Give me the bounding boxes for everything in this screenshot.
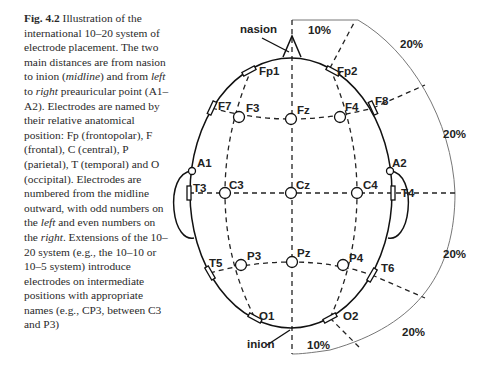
electrode-C4 (352, 188, 363, 199)
nasion-pointer (262, 38, 289, 52)
label-Cz: Cz (296, 179, 310, 191)
electrode-Cz (286, 188, 297, 199)
label-P3: P3 (247, 250, 261, 262)
electrode-Fz (286, 114, 297, 125)
label-F7: F7 (218, 100, 231, 112)
electrode-A1 (189, 168, 196, 175)
label-Fp2: Fp2 (337, 65, 357, 77)
label-A1: A1 (197, 157, 212, 169)
label-inion: inion (247, 338, 274, 350)
label-nasion: nasion (240, 23, 277, 35)
electrode-O2 (323, 313, 337, 323)
label-pct-arc-4: 20% (402, 326, 425, 338)
radial-line (330, 21, 355, 68)
electrode-F3 (234, 112, 245, 123)
label-pct-bottom: 10% (307, 339, 330, 351)
electrode-P3 (236, 260, 247, 271)
label-C3: C3 (229, 179, 244, 191)
electrode-Fp1 (242, 66, 256, 76)
label-F8: F8 (375, 95, 389, 107)
label-pct-arc-1: 20% (400, 38, 423, 50)
electrode-T3 (187, 186, 191, 200)
label-O2: O2 (343, 310, 358, 322)
electrode-F7 (207, 101, 217, 115)
label-T3: T3 (193, 182, 206, 194)
radial-line (330, 318, 360, 348)
label-pct-top: 10% (308, 24, 331, 36)
label-Fp1: Fp1 (259, 65, 280, 77)
eeg-10-20-diagram: nasion inion 10% 10% 20% 20% 20% 20% Fp1… (0, 0, 492, 365)
label-T5: T5 (209, 257, 223, 269)
electrode-T6 (367, 268, 377, 282)
label-C4: C4 (363, 179, 378, 191)
electrode-T4 (391, 186, 395, 200)
electrode-F4 (335, 112, 346, 123)
label-A2: A2 (392, 157, 407, 169)
label-F4: F4 (345, 101, 359, 113)
label-T4: T4 (401, 187, 415, 199)
label-O1: O1 (259, 310, 275, 322)
electrode-P4 (338, 260, 349, 271)
label-Pz: Pz (297, 247, 311, 259)
label-T6: T6 (381, 262, 394, 274)
label-Fz: Fz (297, 104, 310, 116)
label-pct-arc-3: 20% (443, 248, 466, 260)
electrode-Pz (287, 257, 298, 268)
label-P4: P4 (349, 252, 364, 264)
label-pct-arc-2: 20% (443, 128, 466, 140)
label-F3: F3 (246, 102, 259, 114)
radial-line (372, 275, 425, 298)
